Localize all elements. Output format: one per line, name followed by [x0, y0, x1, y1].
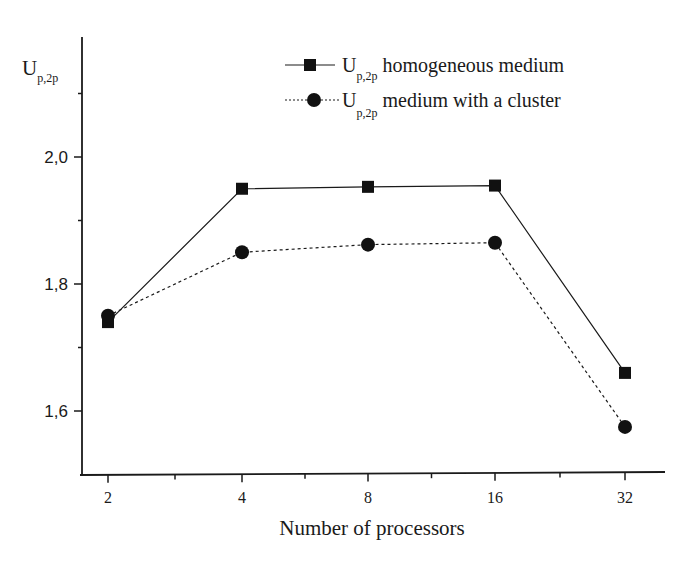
series-layer — [101, 180, 632, 434]
x-tick-label: 2 — [104, 489, 112, 506]
circle-marker-icon — [101, 309, 115, 323]
legend-item-homogeneous: Up,2p homogeneous medium — [285, 54, 565, 83]
legend-circle-marker-icon — [307, 93, 321, 107]
legend-square-marker-icon — [304, 59, 316, 71]
legend-label-homogeneous: Up,2p homogeneous medium — [342, 54, 565, 83]
circle-marker-icon — [361, 238, 375, 252]
y-tick-label: 2,0 — [44, 148, 68, 167]
circle-marker-icon — [618, 420, 632, 434]
square-marker-icon — [236, 183, 248, 195]
y-axis-title: Up,2p — [22, 56, 58, 85]
y-tick-label: 1,6 — [44, 402, 68, 421]
series-homogeneous — [102, 180, 631, 379]
x-tick-label: 16 — [487, 489, 503, 506]
square-marker-icon — [489, 180, 501, 192]
circle-marker-icon — [235, 245, 249, 259]
square-marker-icon — [619, 367, 631, 379]
line-chart: 1,61,82,0 2481632 Up,2p Number of proces… — [0, 0, 687, 565]
x-tick-label: 4 — [238, 489, 246, 506]
square-marker-icon — [362, 181, 374, 193]
y-ticks: 1,61,82,0 — [44, 94, 82, 422]
legend-label-cluster: Up,2p medium with a cluster — [342, 89, 561, 120]
x-tick-label: 32 — [617, 489, 633, 506]
legend-item-cluster: Up,2p medium with a cluster — [285, 89, 561, 120]
series-line — [108, 243, 625, 427]
x-axis-title: Number of processors — [279, 516, 464, 540]
y-tick-label: 1,8 — [44, 275, 68, 294]
x-ticks: 2481632 — [104, 472, 633, 506]
x-tick-label: 8 — [364, 489, 372, 506]
legend: Up,2p homogeneous medium Up,2p medium wi… — [285, 54, 565, 120]
x-axis-line — [80, 472, 665, 475]
circle-marker-icon — [488, 236, 502, 250]
series-cluster — [101, 236, 632, 434]
